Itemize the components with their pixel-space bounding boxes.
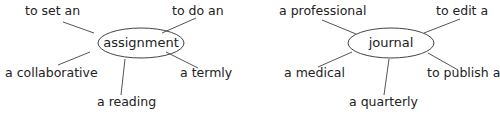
spoke-label: to edit a [436,4,488,18]
spoke-label: a termly [180,66,232,80]
center-word-assignment: assignment [103,36,179,50]
spoke-label: to do an [172,4,224,18]
center-word-journal: journal [369,36,414,50]
spoke-label: a reading [97,95,156,109]
spoke-label: a quarterly [349,95,418,109]
spoke-label: to set an [25,4,80,18]
spoke-label: to publish a [427,66,500,80]
spoke-label: a medical [284,66,345,80]
spoke-label: a professional [279,4,366,18]
spoke-label: a collaborative [5,66,98,80]
